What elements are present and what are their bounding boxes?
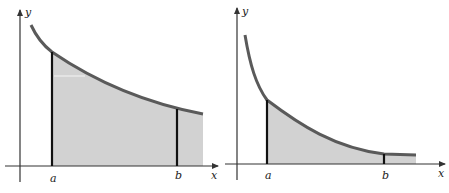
left-x-label: x	[211, 169, 218, 182]
left-panel: y x a b	[5, 6, 218, 185]
right-y-label: y	[241, 5, 249, 18]
figure-canvas: y x a b y x a b	[0, 0, 449, 193]
left-a-label: a	[50, 172, 57, 185]
left-b-label: b	[175, 169, 182, 182]
right-x-label: x	[438, 167, 445, 180]
right-a-label: a	[265, 169, 272, 182]
right-b-label: b	[382, 169, 389, 182]
right-panel: y x a b	[225, 5, 445, 182]
left-y-label: y	[24, 6, 32, 19]
